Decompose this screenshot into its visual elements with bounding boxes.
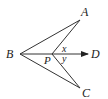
label-b: B (6, 47, 14, 61)
angle-label-y: y (61, 53, 67, 64)
label-c: C (82, 86, 91, 99)
label-p: P (43, 54, 51, 66)
label-d: D (90, 47, 100, 61)
label-a: A (80, 5, 89, 19)
geometry-diagram: A B C D P x y (0, 0, 108, 99)
segment-ba (20, 20, 80, 54)
